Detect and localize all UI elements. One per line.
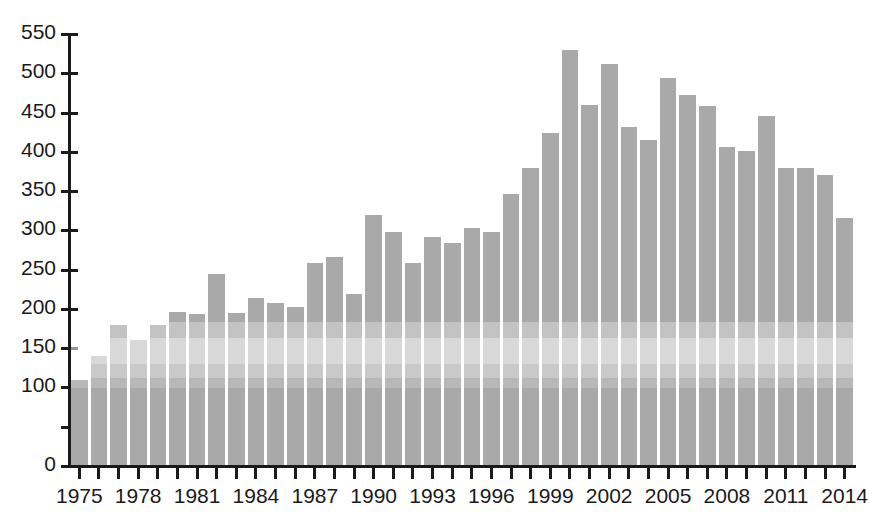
- x-axis-tick: [647, 466, 650, 479]
- bar: [326, 257, 343, 466]
- bar: [483, 232, 500, 466]
- x-axis-tick: [274, 466, 277, 479]
- bar: [562, 50, 579, 466]
- x-axis-tick: [294, 466, 297, 479]
- x-axis-tick: [549, 466, 552, 479]
- bar: [189, 314, 206, 466]
- bar: [228, 313, 245, 466]
- x-axis-tick-label: 2014: [810, 484, 869, 508]
- bar: [150, 325, 167, 466]
- bar: [503, 194, 520, 466]
- bar: [385, 232, 402, 466]
- x-axis-tick: [333, 466, 336, 479]
- bar-chart: 0100150200250300350400450500550 19751978…: [0, 0, 869, 525]
- bar: [346, 294, 363, 466]
- bar: [365, 215, 382, 466]
- bar: [581, 105, 598, 466]
- bar: [758, 116, 775, 466]
- bar: [542, 133, 559, 466]
- bar: [640, 140, 657, 466]
- bar: [287, 307, 304, 466]
- x-axis-tick: [392, 466, 395, 479]
- x-axis-tick: [686, 466, 689, 479]
- bar: [130, 340, 147, 466]
- bar: [464, 228, 481, 466]
- x-axis-tick: [254, 466, 257, 479]
- x-axis-tick: [667, 466, 670, 479]
- bar: [307, 263, 324, 466]
- x-axis-tick: [843, 466, 846, 479]
- x-axis-tick: [706, 466, 709, 479]
- bar: [621, 127, 638, 466]
- x-axis-tick: [784, 466, 787, 479]
- x-axis-tick: [470, 466, 473, 479]
- bar: [405, 263, 422, 466]
- x-axis-tick: [117, 466, 120, 479]
- bar: [836, 218, 853, 466]
- x-axis-tick: [137, 466, 140, 479]
- x-axis-tick: [725, 466, 728, 479]
- x-axis-tick: [529, 466, 532, 479]
- x-axis-tick: [451, 466, 454, 479]
- x-axis-tick: [608, 466, 611, 479]
- bars-layer: [0, 0, 869, 525]
- x-axis-tick: [588, 466, 591, 479]
- x-axis-tick: [824, 466, 827, 479]
- x-axis-tick: [215, 466, 218, 479]
- x-axis-tick: [78, 466, 81, 479]
- x-axis-tick: [627, 466, 630, 479]
- bar: [738, 151, 755, 466]
- bar: [71, 380, 88, 466]
- bar: [601, 64, 618, 466]
- bar: [719, 147, 736, 466]
- bar: [424, 237, 441, 466]
- bar: [679, 95, 696, 466]
- x-axis-tick: [176, 466, 179, 479]
- bar: [699, 106, 716, 466]
- bar: [778, 168, 795, 466]
- x-axis-tick: [235, 466, 238, 479]
- x-axis-tick: [765, 466, 768, 479]
- x-axis-tick: [745, 466, 748, 479]
- bar: [169, 312, 186, 466]
- x-axis-tick: [372, 466, 375, 479]
- x-axis-tick: [411, 466, 414, 479]
- x-axis-tick: [353, 466, 356, 479]
- bar: [267, 303, 284, 466]
- x-axis-tick: [196, 466, 199, 479]
- x-axis-line: [68, 465, 856, 468]
- bar: [248, 298, 265, 466]
- bar: [110, 325, 127, 466]
- x-axis-tick: [490, 466, 493, 479]
- x-axis-tick: [804, 466, 807, 479]
- bar: [817, 175, 834, 466]
- bar: [797, 168, 814, 466]
- x-axis-tick: [97, 466, 100, 479]
- bar: [444, 243, 461, 466]
- x-axis-tick: [431, 466, 434, 479]
- bar: [91, 356, 108, 466]
- bar: [522, 168, 539, 466]
- x-axis-tick: [568, 466, 571, 479]
- bar: [660, 78, 677, 466]
- x-axis-tick: [313, 466, 316, 479]
- x-axis-tick: [156, 466, 159, 479]
- x-axis-tick: [510, 466, 513, 479]
- bar: [208, 274, 225, 466]
